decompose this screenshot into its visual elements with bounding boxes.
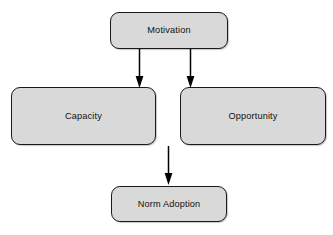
diagram-canvas: Motivation Capacity Opportunity Norm Ado… [0, 0, 333, 235]
node-capacity-label: Capacity [65, 111, 102, 121]
node-motivation[interactable]: Motivation [110, 12, 228, 49]
arrow-motivation-to-capacity-icon [129, 49, 151, 89]
arrow-motivation-to-opportunity-icon [180, 49, 202, 89]
node-capacity[interactable]: Capacity [11, 87, 156, 145]
node-norm-adoption[interactable]: Norm Adoption [111, 186, 227, 222]
node-motivation-label: Motivation [147, 25, 190, 35]
node-opportunity-label: Opportunity [228, 111, 277, 121]
node-norm-adoption-label: Norm Adoption [138, 199, 201, 209]
node-opportunity[interactable]: Opportunity [180, 87, 326, 145]
arrow-to-norm-adoption-icon [158, 145, 180, 187]
